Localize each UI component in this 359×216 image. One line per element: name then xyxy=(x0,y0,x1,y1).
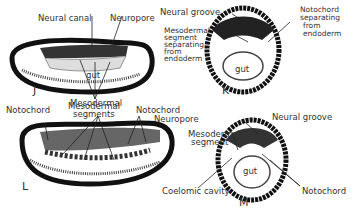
label-notochord-l-left: Notochord xyxy=(6,106,50,114)
panel-k-section xyxy=(207,8,290,92)
label-neuropore-l: Neuropore xyxy=(154,115,199,123)
label-gut-m: gut xyxy=(243,167,257,175)
panel-letter-l: L xyxy=(22,180,28,193)
label-gut-j: gut xyxy=(86,71,100,79)
label-neuropore-j: Neuropore xyxy=(110,14,155,22)
panel-letter-m: M xyxy=(239,196,249,209)
panel-l-embryo xyxy=(22,116,172,184)
label-coelomic-cavity: Coelomic cavity xyxy=(162,187,230,195)
label-neural-canal: Neural canal xyxy=(38,14,92,22)
label-notochord-l-right: Notochord xyxy=(136,106,180,114)
label-gut-k: gut xyxy=(235,65,249,73)
panel-letter-k: K xyxy=(222,84,229,97)
label-notochord-m: Notochord xyxy=(302,187,346,195)
panel-letter-j: J xyxy=(33,84,36,97)
label-neural-groove-m: Neural groove xyxy=(272,113,332,121)
label-neural-groove-k: Neural groove xyxy=(160,8,220,16)
